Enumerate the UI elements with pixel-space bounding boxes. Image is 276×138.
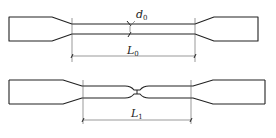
fractured-specimen-outline-top [9,80,265,90]
diameter-label-d0: d0 [136,8,148,22]
fractured-specimen-outline-bottom [9,94,265,104]
fractured-specimen: L1 [9,80,265,124]
diameter-marker [127,21,135,37]
original-specimen: L0 d0 [9,8,258,62]
elongated-length-label-L1: L1 [130,107,143,121]
gauge-length-label-L0: L0 [126,44,139,58]
tensile-specimen-diagram: L0 d0 L1 [0,0,276,138]
original-specimen-outline [9,17,258,41]
